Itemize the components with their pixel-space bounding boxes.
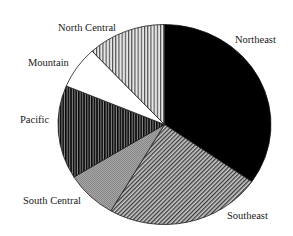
label-pacific: Pacific [20, 115, 49, 126]
label-northeast: Northeast [235, 35, 276, 46]
label-north-central: North Central [58, 23, 116, 34]
label-south-central: South Central [23, 196, 81, 207]
label-southeast: Southeast [227, 211, 268, 222]
label-mountain: Mountain [28, 58, 69, 69]
pie-slices [58, 24, 271, 224]
